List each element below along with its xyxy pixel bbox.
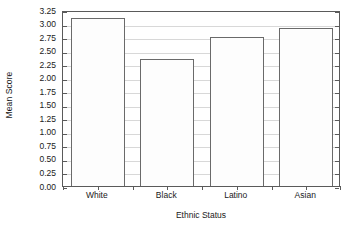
y-tick-mark-right — [335, 107, 339, 108]
x-axis-boundary-tick — [340, 186, 341, 190]
y-axis-tick-labels: 3.253.002.752.502.252.001.751.501.251.00… — [18, 0, 59, 195]
x-axis-title: Ethnic Status — [62, 210, 340, 220]
y-tick-label: 3.00 — [39, 20, 56, 29]
y-tick-label: 2.75 — [39, 34, 56, 43]
y-tick-label: 0.25 — [39, 169, 56, 178]
y-tick-label: 2.25 — [39, 61, 56, 70]
bar-chart: Mean Score 3.253.002.752.502.252.001.751… — [0, 0, 353, 234]
bar — [210, 37, 264, 186]
y-tick-mark-left — [63, 120, 67, 121]
y-tick-mark-left — [63, 39, 67, 40]
y-tick-mark-left — [63, 161, 67, 162]
y-tick-mark-right — [335, 161, 339, 162]
x-tick-label: Black — [156, 190, 177, 201]
y-tick-mark-right — [335, 39, 339, 40]
y-tick-mark-left — [63, 107, 67, 108]
y-tick-label: 1.25 — [39, 115, 56, 124]
plot-area — [62, 11, 340, 187]
y-tick-mark-right — [335, 147, 339, 148]
y-tick-mark-right — [335, 53, 339, 54]
y-tick-mark-left — [63, 93, 67, 94]
y-tick-mark-right — [335, 120, 339, 121]
y-tick-mark-right — [335, 26, 339, 27]
y-tick-label: 1.00 — [39, 128, 56, 137]
y-axis-title: Mean Score — [0, 0, 18, 190]
y-tick-mark-left — [63, 26, 67, 27]
y-tick-label: 0.50 — [39, 155, 56, 164]
y-tick-label: 1.50 — [39, 101, 56, 110]
x-tick-label: White — [86, 190, 108, 201]
y-tick-mark-right — [335, 12, 339, 13]
y-tick-label: 1.75 — [39, 88, 56, 97]
y-tick-mark-left — [63, 12, 67, 13]
y-tick-mark-left — [63, 147, 67, 148]
y-tick-mark-left — [63, 80, 67, 81]
y-tick-label: 0.75 — [39, 142, 56, 151]
y-tick-mark-left — [63, 134, 67, 135]
x-axis-tick-labels: WhiteBlackLatinoAsian — [62, 190, 340, 204]
bar — [279, 28, 333, 186]
bar — [71, 18, 125, 186]
x-tick-label: Asian — [295, 190, 316, 201]
y-tick-mark-right — [335, 80, 339, 81]
y-tick-label: 0.00 — [39, 183, 56, 192]
y-tick-mark-right — [335, 93, 339, 94]
bar — [140, 59, 194, 186]
y-tick-label: 3.25 — [39, 7, 56, 16]
y-tick-label: 2.00 — [39, 74, 56, 83]
y-tick-mark-right — [335, 134, 339, 135]
y-tick-mark-right — [335, 174, 339, 175]
y-tick-label: 2.50 — [39, 47, 56, 56]
y-tick-mark-right — [335, 66, 339, 67]
y-tick-mark-right — [335, 188, 339, 189]
y-tick-mark-left — [63, 66, 67, 67]
x-tick-label: Latino — [224, 190, 247, 201]
y-tick-mark-left — [63, 53, 67, 54]
y-axis-title-label: Mean Score — [4, 72, 14, 119]
y-tick-mark-left — [63, 174, 67, 175]
